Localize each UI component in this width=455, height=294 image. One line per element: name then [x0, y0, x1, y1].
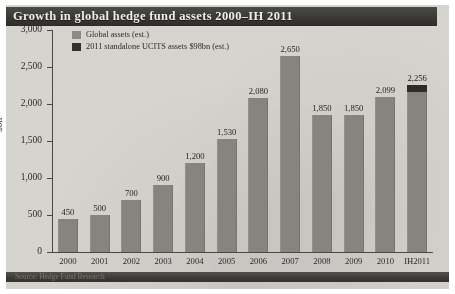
- bar-group: 2,080: [248, 30, 268, 252]
- bar-stack: [121, 200, 141, 252]
- bar-segment-global: [90, 215, 110, 252]
- x-tick-label: 2010: [377, 256, 394, 266]
- bar-segment-global: [280, 56, 300, 252]
- bar-group: 2,650: [280, 30, 300, 252]
- bar-segment-global: [121, 200, 141, 252]
- y-tick-label: 2,000: [2, 98, 42, 108]
- bar-value-label: 1,200: [185, 151, 204, 161]
- bar-group: 1,850: [312, 30, 332, 252]
- bar-group: 2,256: [407, 30, 427, 252]
- chart-title-bar: Growth in global hedge fund assets 2000–…: [6, 7, 437, 26]
- bar-group: 2,099: [375, 30, 395, 252]
- bar-stack: [248, 98, 268, 252]
- bar-stack: [344, 115, 364, 252]
- bar-segment-global: [217, 139, 237, 252]
- bar-value-label: 2,099: [376, 85, 395, 95]
- source-text: Source: Hedge Fund Research: [15, 272, 105, 281]
- bar-group: 1,850: [344, 30, 364, 252]
- page-title: Growth in global hedge fund assets 2000–…: [13, 9, 293, 24]
- bar-stack: [185, 163, 205, 252]
- bar-segment-global: [248, 98, 268, 252]
- bar-group: 900: [153, 30, 173, 252]
- x-tick-label: 2005: [218, 256, 235, 266]
- bar-segment-global: [58, 219, 78, 252]
- bar-segment-global: [344, 115, 364, 252]
- bar-value-label: 1,530: [217, 127, 236, 137]
- bar-group: 700: [121, 30, 141, 252]
- x-tick-label: 2003: [155, 256, 172, 266]
- bar-value-label: 2,080: [249, 86, 268, 96]
- bar-stack: [153, 185, 173, 252]
- bar-group: 450: [58, 30, 78, 252]
- bar-stack: [312, 115, 332, 252]
- bar-value-label: 500: [93, 203, 106, 213]
- x-tick-label: 2001: [91, 256, 108, 266]
- x-tick-label: 2009: [345, 256, 362, 266]
- y-tick-label: 500: [2, 209, 42, 219]
- bar-stack: [90, 215, 110, 252]
- bar-stack: [280, 56, 300, 252]
- x-tick-label: 2000: [59, 256, 76, 266]
- bar-value-label: 700: [125, 188, 138, 198]
- x-tick-label: 2004: [186, 256, 203, 266]
- bar-segment-global: [185, 163, 205, 252]
- bar-value-label: 900: [157, 173, 170, 183]
- bar-segment-global: [375, 97, 395, 252]
- y-tick-label: 3,000: [2, 24, 42, 34]
- x-tick-label: IH2011: [404, 256, 430, 266]
- y-tick-label: 2,500: [2, 61, 42, 71]
- y-tick-label: 0: [2, 246, 42, 256]
- bar-stack: [375, 97, 395, 252]
- bar-segment-global: [153, 185, 173, 252]
- bar-stack: [58, 219, 78, 252]
- x-tick-label: 2007: [282, 256, 299, 266]
- x-axis-line: [52, 252, 433, 253]
- bar-value-label: 2,650: [280, 44, 299, 54]
- y-tick-label: 1,500: [2, 135, 42, 145]
- bars-layer: 4505007009001,2001,5302,0802,6501,8501,8…: [52, 30, 433, 252]
- bar-segment-ucits: [407, 85, 427, 92]
- x-tick-label: 2002: [123, 256, 140, 266]
- bar-segment-global: [312, 115, 332, 252]
- bar-value-label: 450: [61, 207, 74, 217]
- bar-stack: [217, 139, 237, 252]
- bar-value-label: 2,256: [407, 73, 426, 83]
- y-axis-title: $bn: [0, 118, 4, 132]
- bar-value-label: 1,850: [312, 103, 331, 113]
- y-tick-label: 1,000: [2, 172, 42, 182]
- x-tick-label: 2008: [313, 256, 330, 266]
- bar-stack: [407, 85, 427, 252]
- x-tick-label: 2006: [250, 256, 267, 266]
- bar-group: 1,200: [185, 30, 205, 252]
- source-band: Source: Hedge Fund Research: [6, 272, 449, 282]
- figure-container: Growth in global hedge fund assets 2000–…: [0, 0, 455, 294]
- bar-value-label: 1,850: [344, 103, 363, 113]
- bar-segment-global: [407, 92, 427, 252]
- y-tick-mark: [47, 252, 52, 253]
- bar-group: 500: [90, 30, 110, 252]
- bar-group: 1,530: [217, 30, 237, 252]
